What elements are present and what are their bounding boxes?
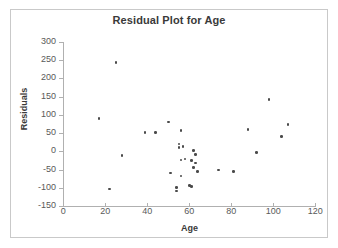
- y-axis-tick-label: -50: [12, 165, 56, 174]
- data-point: [232, 170, 235, 173]
- x-axis-tick-label: 120: [300, 207, 330, 216]
- data-point: [190, 185, 193, 188]
- data-point: [178, 146, 181, 149]
- data-point: [169, 172, 172, 175]
- y-axis-tick-label: 250: [12, 55, 56, 64]
- y-axis-tick-label: 50: [12, 128, 56, 137]
- scatter-plot-area: [63, 42, 315, 206]
- data-point: [115, 61, 118, 64]
- data-point: [255, 151, 258, 154]
- x-axis-tick-label: 0: [48, 207, 78, 216]
- data-point: [280, 135, 283, 138]
- x-axis-tick-label: 40: [132, 207, 162, 216]
- data-point: [194, 153, 197, 156]
- x-axis-tick-label: 100: [258, 207, 288, 216]
- y-axis-tick-label: 150: [12, 92, 56, 101]
- data-point: [180, 129, 183, 132]
- data-point: [192, 149, 195, 152]
- x-axis-tick-label: 80: [216, 207, 246, 216]
- data-point: [167, 121, 170, 124]
- data-point: [190, 159, 193, 162]
- x-axis-tick-label: 60: [174, 207, 204, 216]
- data-point: [108, 188, 111, 191]
- x-axis-tick-label: 20: [90, 207, 120, 216]
- chart-container: Residual Plot for Age Residuals Age 3002…: [0, 0, 338, 248]
- y-axis-tick-label: 0: [12, 146, 56, 155]
- y-axis-tick-label: 100: [12, 110, 56, 119]
- data-point: [154, 131, 157, 134]
- y-axis-tick-label: 200: [12, 73, 56, 82]
- x-axis-title: Age: [63, 223, 316, 233]
- data-point: [192, 166, 195, 169]
- y-axis-tick-label: -100: [12, 183, 56, 192]
- chart-title: Residual Plot for Age: [0, 14, 338, 26]
- y-axis-tick-label: 300: [12, 37, 56, 46]
- data-point: [196, 170, 199, 173]
